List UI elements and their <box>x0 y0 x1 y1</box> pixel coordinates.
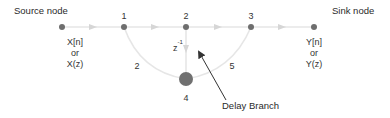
delay-branch-annotation: Delay Branch <box>222 101 279 111</box>
right-arc-gain: 5 <box>229 62 234 71</box>
sink-node-label: Sink node <box>332 6 374 16</box>
signal-flow-graph <box>0 0 390 118</box>
nodes <box>59 24 317 86</box>
left-arc-gain: 2 <box>134 62 139 71</box>
node-1-dot <box>121 24 127 30</box>
delay-branch-pointer-arrow <box>199 52 226 100</box>
node-4-dot <box>179 72 193 86</box>
node-2-label: 2 <box>183 12 188 21</box>
node-3-dot <box>248 24 254 30</box>
node-4-label: 4 <box>183 94 188 103</box>
delay-gain: z-1 <box>173 42 183 53</box>
node-1-label: 1 <box>121 12 126 21</box>
node-3-label: 3 <box>248 12 253 21</box>
output-signal-label: Y[n] or Y(z) <box>306 37 323 70</box>
sink-node-dot <box>311 24 317 30</box>
input-signal-label: X[n] or X(z) <box>67 37 84 70</box>
forward-branches <box>62 27 314 79</box>
source-node-label: Source node <box>14 6 68 16</box>
source-node-dot <box>59 24 65 30</box>
node-2-dot <box>183 24 189 30</box>
